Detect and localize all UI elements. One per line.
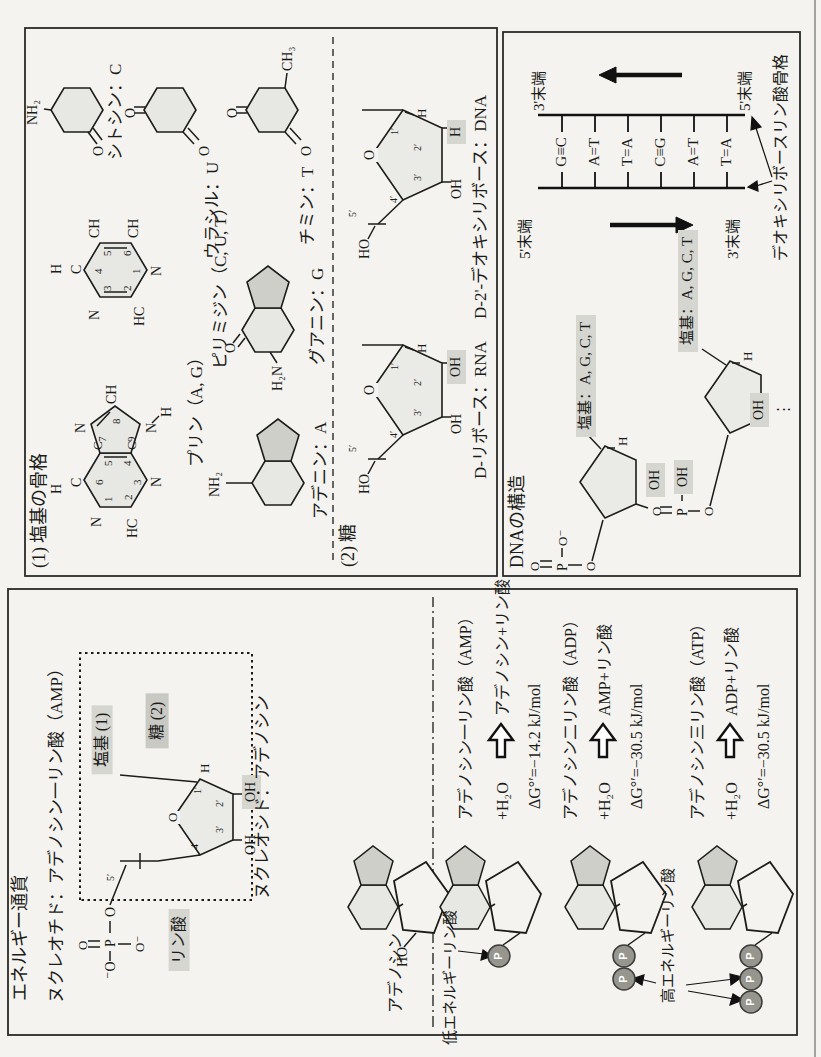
- deoxyribose-ring: [372, 110, 442, 200]
- purine-c6: C: [70, 478, 85, 487]
- ladder-end-3-bottom: 3'末端: [726, 219, 742, 259]
- purine-n7: N: [74, 423, 89, 433]
- base-tag: 塩基 (1): [92, 706, 113, 775]
- ribose-label: D-リボース：RNA: [472, 341, 490, 479]
- purine-no5: 5: [103, 461, 115, 467]
- pyrimidine-c4: C: [70, 265, 85, 274]
- adenosine-ho: HO: [396, 947, 411, 967]
- pyrimidine-no5: 5: [102, 251, 114, 257]
- purine-no3: 3: [132, 480, 144, 486]
- purine-h9: H: [160, 407, 175, 417]
- low-energy-label: 低エネルギーリン酸: [443, 910, 459, 1045]
- pyrimidine-hc2: HC: [133, 307, 148, 326]
- deoxyribose-4: 4′: [389, 196, 400, 203]
- amp-phos-p: P: [104, 939, 119, 947]
- guanine-label: グアニン：G: [309, 268, 327, 365]
- deoxyribose-label: D-2'-デオキシリボース：DNA: [472, 95, 490, 319]
- purine-c5: C: [91, 441, 105, 450]
- ladder-end-5-bottom: 5'末端: [738, 71, 754, 111]
- adp-reaction-water: +H₂O: [597, 782, 614, 820]
- purine-c4: C: [125, 441, 139, 450]
- amp-phos-o-ester: O: [104, 907, 119, 917]
- backbone-label: デオキシリボースリン酸骨格: [773, 54, 790, 261]
- deoxyribose-ho: HO: [358, 239, 373, 259]
- adp-reaction-product: AMP+リン酸: [597, 624, 614, 716]
- phos1-o-top: O: [528, 562, 542, 571]
- energy-title: エネルギー通貨: [11, 875, 30, 1001]
- nucleotide-title: ヌクレオチド：アデノシン一リン酸（AMP）: [48, 660, 66, 1003]
- purine-label: プリン（A, G）: [188, 349, 206, 467]
- amp-reaction-water: +H₂O: [495, 782, 512, 820]
- ladder-end-3-top: 3'末端: [532, 71, 548, 111]
- cytosine-oxo: O: [92, 146, 107, 156]
- guanine-pentagon: [247, 266, 289, 308]
- phosphate-tag: リン酸: [169, 909, 190, 971]
- ribose-1: 1′: [390, 363, 401, 370]
- strand-h1: H: [741, 352, 755, 361]
- purine-h6: H: [50, 484, 65, 494]
- section2-heading: (2) 糖: [339, 524, 358, 568]
- cytosine-amine: NH₂: [26, 100, 41, 125]
- guanine-oxo: O: [224, 343, 239, 353]
- ribose-h1: H: [415, 344, 429, 353]
- adenine-amine: NH₂: [208, 472, 223, 497]
- adp-reaction-dg: ΔG°′=−30.5 kJ/mol: [629, 684, 646, 809]
- thymine-oxo-top: O: [226, 108, 241, 118]
- dna-heading: DNAの構造: [508, 475, 527, 568]
- nucleoside-dotted-box: [80, 653, 252, 900]
- purine-no6: 6: [94, 480, 106, 486]
- ribose-ring-o: O: [363, 383, 378, 397]
- pyrimidine-n3: N: [88, 310, 103, 320]
- pyrimidine-h4: H: [50, 264, 65, 274]
- pyrimidine-no1: 1: [131, 269, 143, 275]
- purine-no4: 4: [122, 461, 134, 467]
- landscape-figure: (1) 塩基の骨格HCCHCHNHCN456123ピリミジン（C, U, T）H…: [0, 0, 821, 1057]
- strand-dots: ⋮: [776, 402, 792, 417]
- phos1-o-minus: O⁻: [556, 530, 570, 546]
- purine-no2: 2: [123, 495, 135, 501]
- purine-no7: 7: [97, 437, 109, 443]
- block-arrow-icon: [489, 724, 513, 757]
- amp-2: 2′: [215, 800, 226, 807]
- ribose-ho: HO: [358, 474, 373, 494]
- bp-6: T=A: [719, 138, 735, 166]
- adenosine-structure: [348, 846, 449, 947]
- arrow-up-icon: [599, 67, 616, 83]
- guanine-hexagon: [242, 308, 294, 352]
- deoxyribose-1: 1′: [390, 128, 401, 135]
- strand-base-2: 塩基：A, G, C, T: [576, 315, 596, 437]
- bp-3: T=A: [620, 138, 636, 166]
- deoxyribose-3: 3′: [413, 174, 424, 181]
- pyrimidine-ch5: CH: [88, 219, 103, 238]
- nucleoside-label: ヌクレオシド：アデノシン: [254, 695, 272, 899]
- uracil-oxo-bottom: O: [198, 146, 213, 156]
- purine-hc2: HC: [126, 519, 141, 538]
- p-atp-2: P: [745, 975, 757, 982]
- adenine-hexagon: [252, 461, 304, 505]
- deoxyribose-5: 5′: [348, 210, 359, 217]
- ribose-2: 2′: [413, 379, 424, 386]
- amp-1: 1′: [193, 787, 204, 794]
- deoxyribose-h1: H: [415, 109, 429, 118]
- atp-reaction-dg: ΔG°′=−30.5 kJ/mol: [756, 684, 773, 809]
- bp-4: C≡G: [653, 137, 669, 166]
- strand-sugar-2: [580, 446, 636, 518]
- bp-1: G≡C: [554, 137, 570, 166]
- strand-h2: H: [616, 437, 630, 446]
- ribose-5: 5′: [348, 445, 359, 452]
- phos2-oh: OH: [674, 460, 693, 494]
- uracil-ring: [144, 88, 196, 132]
- deoxyribose-ring-o: O: [363, 148, 378, 162]
- thymine-methyl: CH₃: [281, 47, 296, 71]
- pyrimidine-no4: 4: [93, 269, 105, 275]
- amp-5: 5′: [106, 874, 117, 881]
- sugar-tag: 糖 (2): [146, 694, 169, 749]
- block-arrow-icon: [718, 724, 742, 757]
- strand-oh-upper: OH: [646, 463, 665, 497]
- ribose-ring: [372, 345, 442, 435]
- purine-ch8: CH: [105, 385, 120, 404]
- ladder-end-5-top: 5'末端: [518, 219, 534, 259]
- thymine-label: チミン：T: [299, 167, 317, 245]
- pyrimidine-ch6: CH: [127, 219, 142, 238]
- deoxyribose-2: 2′: [413, 144, 424, 151]
